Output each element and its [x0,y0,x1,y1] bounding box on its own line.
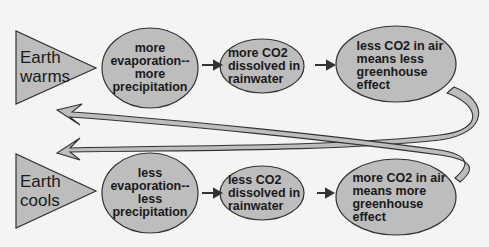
earth-warms-label: Earth warms [20,48,70,86]
top-step3-node: less CO2 in air means less greenhouse ef… [350,40,450,92]
bottom-step3-node: more CO2 in air means more greenhouse ef… [349,172,449,224]
bottom-step2-node: less CO2 dissolved in rainwater [222,169,306,217]
earth-cools-label: Earth cools [20,172,61,210]
bottom-step1-node: less evaporation-- less precipitation [102,155,198,231]
top-step1-node: more evaporation-- more precipitation [102,30,198,106]
top-step2-node: more CO2 dissolved in rainwater [222,42,306,90]
